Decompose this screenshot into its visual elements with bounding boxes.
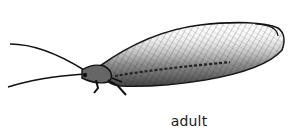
lacewing-adult-illustration bbox=[0, 0, 293, 140]
antenna-lower bbox=[8, 74, 84, 87]
wing bbox=[100, 23, 284, 87]
antenna-upper bbox=[10, 44, 84, 70]
figure-caption: adult bbox=[168, 113, 210, 129]
antennae bbox=[8, 44, 84, 87]
